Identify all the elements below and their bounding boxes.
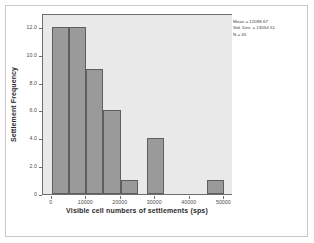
x-axis-tick-mark (154, 196, 155, 199)
x-axis-tick-mark (189, 196, 190, 199)
x-axis-tick-label: 10000 (78, 200, 93, 205)
x-axis-tick-label: 30000 (147, 200, 162, 205)
y-axis-tick-label: 12.0 (27, 25, 38, 30)
y-axis-tick-label: 0 (34, 192, 37, 197)
histogram-bar (207, 180, 224, 194)
y-axis-tick-group: 02.04.06.08.010.012.0 (14, 0, 42, 243)
y-axis-tick-label: 2.0 (29, 165, 37, 170)
histogram-bar (147, 138, 164, 194)
histogram-bar (121, 180, 138, 194)
x-axis-tick-label: 0 (49, 200, 52, 205)
plot-area-frame (42, 14, 232, 195)
plot-area (43, 15, 232, 194)
x-axis-tick-mark (223, 196, 224, 199)
x-axis-tick-label: 40000 (181, 200, 196, 205)
y-axis-tick-label: 10.0 (27, 53, 38, 58)
histogram-bar (69, 27, 86, 194)
x-axis-title: Visible cell numbers of settlements (sps… (42, 207, 232, 214)
histogram-bar (52, 27, 69, 194)
x-axis-tick-label: 50000 (216, 200, 231, 205)
x-axis-tick-mark (85, 196, 86, 199)
histogram-bar (103, 110, 120, 194)
x-axis-tick-label: 20000 (112, 200, 127, 205)
y-axis-tick-label: 4.0 (29, 137, 37, 142)
statistics-line: N = 45 (233, 32, 289, 38)
x-axis-tick-mark (51, 196, 52, 199)
histogram-figure: Settlement Frequency 02.04.06.08.010.012… (0, 0, 314, 243)
y-axis-tick-label: 6.0 (29, 109, 37, 114)
histogram-bar (86, 69, 103, 194)
y-axis-tick-label: 8.0 (29, 81, 37, 86)
statistics-annotation: Mean = 12098.67Std. Dev. = 13054.51N = 4… (233, 19, 289, 38)
x-axis-tick-mark (120, 196, 121, 199)
